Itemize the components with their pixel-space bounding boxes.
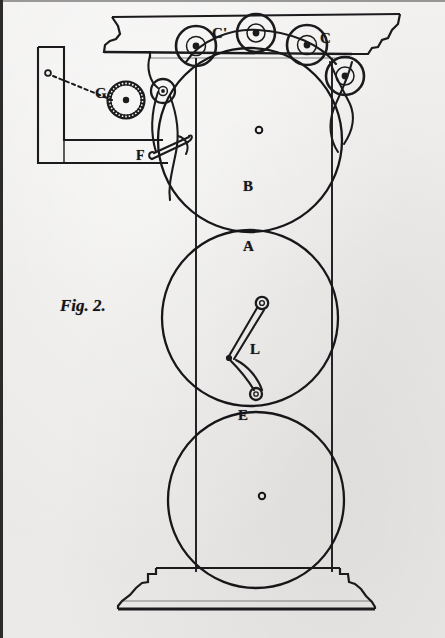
figure-caption: Fig. 2. <box>60 296 106 316</box>
figure-canvas: Fig. 2. C' C G F B A L E <box>0 0 445 638</box>
drum-E-hub <box>259 493 265 499</box>
linkage-L <box>226 297 268 400</box>
label-l: L <box>250 341 260 358</box>
label-e: E <box>238 407 248 424</box>
label-c: C <box>320 30 331 47</box>
bracket-pivot-dot <box>45 70 51 76</box>
label-f: F <box>136 148 145 164</box>
label-a: A <box>243 238 254 255</box>
roller-top <box>237 14 275 52</box>
label-c-prime: C' <box>212 25 227 42</box>
figure-drawing <box>0 0 445 638</box>
drum-E <box>168 412 344 588</box>
label-b: B <box>243 178 253 195</box>
label-g: G <box>95 85 107 102</box>
drum-B-hub <box>256 127 263 134</box>
